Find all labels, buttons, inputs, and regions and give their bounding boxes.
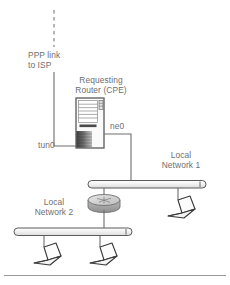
network-diagram: PPP link to ISP Requesting Router (CPE) …: [0, 0, 230, 285]
laptop-network-2-b: [90, 243, 117, 265]
router-optical-drive: [80, 125, 97, 128]
router-drive-bay-panel: [79, 101, 98, 123]
local-network-1-label: Local Network 1: [150, 151, 212, 170]
local-network-2-label: Local Network 2: [23, 198, 85, 217]
hub-icon: [88, 195, 120, 213]
laptop-network-1: [168, 196, 195, 218]
network-diagram-canvas: [0, 0, 230, 285]
ppp-link-label: PPP link to ISP: [28, 51, 86, 70]
laptop-network-2-a: [34, 243, 61, 265]
network-segment-2: [14, 228, 132, 236]
cpe-router-icon: [76, 98, 104, 148]
network-segment-1: [88, 181, 206, 189]
network-1-bar: [88, 181, 206, 189]
interface-ne0-label: ne0: [110, 122, 134, 132]
ne0-link-path: [104, 134, 131, 186]
interface-tun0-label: tun0: [38, 141, 68, 151]
router-base-shading: [76, 131, 92, 148]
router-led-strip: [99, 101, 103, 110]
ne0-link: [104, 134, 131, 186]
requesting-router-label: Requesting Router (CPE): [60, 76, 142, 95]
network-2-bar: [14, 228, 132, 236]
